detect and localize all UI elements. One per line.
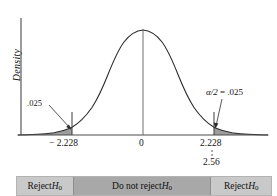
reject-left-text: Reject bbox=[27, 181, 51, 191]
y-axis-label: Density bbox=[12, 35, 22, 95]
do-not-reject-hypothesis-symbol: H bbox=[162, 181, 169, 191]
decision-rule-bar: Reject H0 Do not reject H0 Reject H0 bbox=[16, 176, 272, 196]
alpha-value: .025 bbox=[227, 87, 243, 97]
equals-sign: = bbox=[218, 87, 228, 97]
left-tail-area-label: .025 bbox=[27, 99, 42, 108]
alpha-symbol: α/2 bbox=[206, 87, 218, 97]
decision-segment-reject-left: Reject H0 bbox=[17, 177, 73, 195]
t-distribution-figure: Density .025 α/2 = .025 − 2.228 0 2.228 … bbox=[0, 0, 277, 196]
reject-right-hypothesis-index: 0 bbox=[255, 184, 259, 192]
reject-right-text: Reject bbox=[224, 181, 248, 191]
right-annotation-leader-line bbox=[216, 99, 222, 126]
reject-right-hypothesis-symbol: H bbox=[248, 181, 255, 191]
reject-left-hypothesis-symbol: H bbox=[52, 181, 59, 191]
decision-segment-reject-right: Reject H0 bbox=[211, 177, 271, 195]
x-tick-label-zero: 0 bbox=[139, 139, 144, 149]
reject-left-hypothesis-index: 0 bbox=[59, 184, 63, 192]
x-tick-label-negative-critical: − 2.228 bbox=[49, 139, 78, 149]
x-tick-label-positive-critical: 2.228 bbox=[200, 139, 221, 149]
test-statistic-label: 2.56 bbox=[203, 158, 220, 168]
do-not-reject-hypothesis-index: 0 bbox=[169, 184, 173, 192]
right-tail-area-label: α/2 = .025 bbox=[206, 88, 243, 97]
do-not-reject-text: Do not reject bbox=[112, 181, 162, 191]
decision-segment-do-not-reject: Do not reject H0 bbox=[73, 177, 212, 195]
left-annotation-leader-line bbox=[49, 105, 70, 128]
